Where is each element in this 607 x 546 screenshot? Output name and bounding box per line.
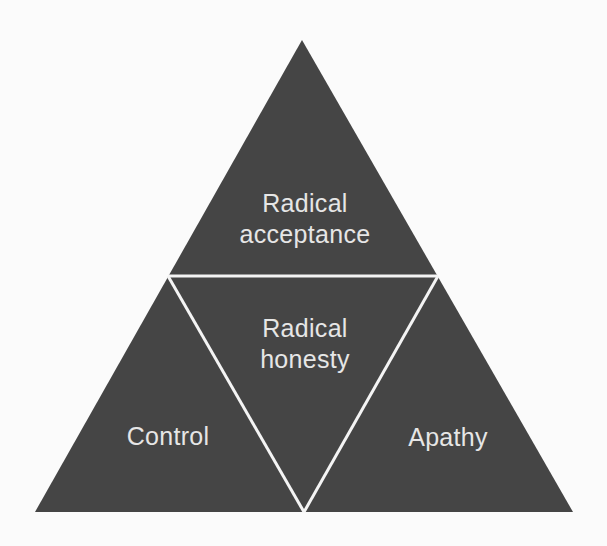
center-label-line2: honesty bbox=[260, 345, 350, 373]
segment-bottom-left: Control bbox=[127, 422, 210, 450]
triangle-diagram: Radical acceptance Radical honesty Contr… bbox=[0, 0, 607, 546]
bottom-left-label: Control bbox=[127, 422, 210, 450]
top-label-line1: Radical bbox=[262, 189, 347, 217]
bottom-right-label: Apathy bbox=[408, 423, 488, 451]
segment-bottom-right: Apathy bbox=[408, 423, 488, 451]
center-label-line1: Radical bbox=[262, 314, 347, 342]
top-label-line2: acceptance bbox=[240, 220, 371, 248]
